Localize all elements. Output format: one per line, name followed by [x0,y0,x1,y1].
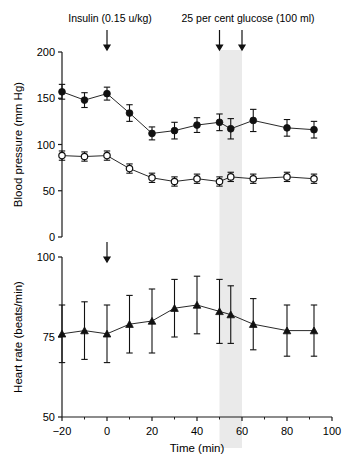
hr-y-axis-title: Heart rate (beats/min) [12,281,24,393]
bp-y-tick-label: 0 [49,231,55,243]
marker-filled-circle [284,124,291,131]
data-point [126,105,133,122]
x-tick-label: 0 [104,425,110,437]
marker-open-circle [81,153,87,159]
series-line [62,305,314,334]
x-tick-label: 40 [191,425,203,437]
data-point [311,121,318,138]
series-open-circle [59,151,317,186]
x-tick-label: 60 [236,425,248,437]
insulin-arrow-head [104,45,110,50]
scientific-figure: Insulin (0.15 u/kg)25 per cent glucose (… [0,0,343,468]
glucose-infusion-band [220,50,243,448]
data-point [149,127,156,140]
marker-filled-circle [194,122,201,129]
x-axis-title: Time (min) [170,442,225,454]
data-point [194,174,200,183]
data-point [171,122,178,139]
data-point [311,174,317,183]
data-point [126,164,132,173]
data-point [249,299,257,350]
marker-open-circle [250,176,256,182]
data-point [81,93,88,108]
marker-triangle [81,327,89,334]
marker-open-circle [216,178,222,184]
insulin-annotation-label: Insulin (0.15 u/kg) [68,12,151,24]
marker-filled-circle [171,127,178,134]
glucose-annotation-label: 25 per cent glucose (100 ml) [181,12,314,24]
data-point [104,87,111,100]
marker-filled-circle [149,130,156,137]
data-point [59,151,65,160]
insulin-arrow-lower-head [104,257,110,262]
series-filled-circle [59,84,318,140]
marker-open-circle [194,176,200,182]
marker-filled-circle [81,97,88,104]
marker-open-circle [311,176,317,182]
marker-filled-circle [104,90,111,97]
data-point [284,120,291,137]
marker-open-circle [149,175,155,181]
marker-open-circle [104,152,110,158]
bp-y-tick-label: 150 [37,92,55,104]
marker-open-circle [126,165,132,171]
data-point [250,109,257,131]
series-filled-triangle [58,276,318,362]
series-line [62,156,314,182]
glucose-arrow-start [217,30,223,50]
marker-filled-circle [216,119,223,126]
x-tick-label: −20 [53,425,72,437]
marker-open-circle [59,152,65,158]
marker-triangle [249,321,257,328]
marker-open-circle [228,174,234,180]
figure-container: Insulin (0.15 u/kg)25 per cent glucose (… [0,0,343,468]
marker-triangle [193,301,201,308]
marker-filled-circle [311,126,318,133]
series-line [62,92,314,134]
glucose-arrow-end [239,30,245,50]
glucose-arrow-end-head [239,45,245,50]
x-tick-label: 100 [323,425,341,437]
bp-y-tick-label: 200 [37,46,55,58]
data-point [81,152,87,161]
insulin-arrow-lower [104,242,110,262]
hr-y-tick-label: 75 [43,331,55,343]
marker-filled-circle [126,110,133,117]
bp-y-tick-label: 50 [43,185,55,197]
x-tick-label: 80 [281,425,293,437]
hr-y-tick-label: 100 [37,251,55,263]
bp-y-axis-title: Blood pressure (mm Hg) [12,82,24,207]
data-point [250,174,256,183]
glucose-arrow-start-head [217,45,223,50]
marker-filled-circle [59,88,66,95]
data-point [284,172,290,181]
marker-filled-circle [227,125,234,132]
marker-triangle [148,317,156,324]
data-point [59,84,66,99]
insulin-arrow [104,30,110,50]
marker-open-circle [171,178,177,184]
x-tick-label: 20 [146,425,158,437]
data-point [149,173,155,182]
marker-open-circle [284,174,290,180]
data-point [171,177,177,186]
bp-y-tick-label: 100 [37,139,55,151]
data-point [104,151,110,160]
marker-filled-circle [250,117,257,124]
hr-y-tick-label: 50 [43,411,55,423]
data-point [194,118,201,133]
